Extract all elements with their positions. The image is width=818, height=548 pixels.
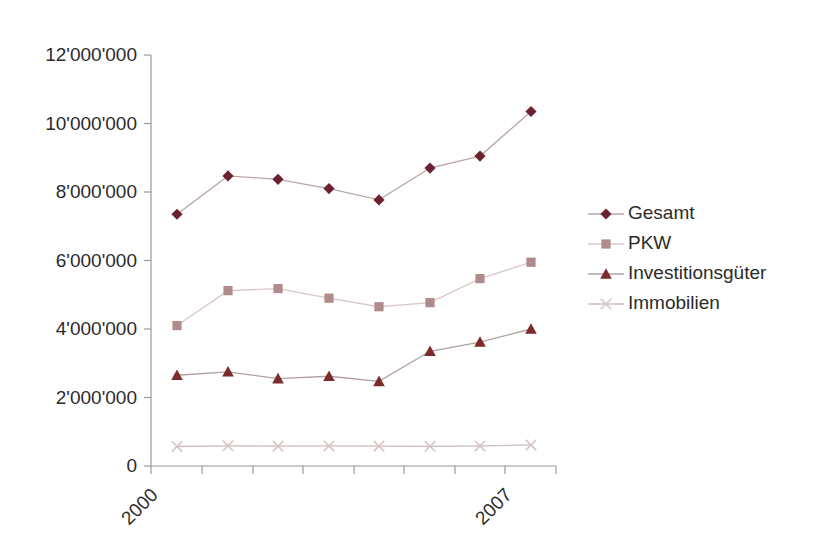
legend-label: Investitionsgüter	[628, 262, 767, 283]
data-point-diamond	[323, 183, 334, 194]
data-point-square	[526, 258, 535, 267]
data-point-square	[172, 321, 181, 330]
data-point-diamond	[171, 209, 182, 220]
series-investitionsg-ter	[171, 323, 537, 386]
data-point-triangle	[323, 370, 335, 381]
y-tick-label: 10'000'000	[45, 113, 137, 134]
data-point-square	[223, 286, 232, 295]
x-tick-label: 2007	[471, 484, 516, 529]
data-point-square	[425, 298, 434, 307]
x-axis: 20002007	[117, 466, 556, 529]
series-gesamt	[171, 106, 536, 220]
y-tick-label: 6'000'000	[56, 250, 137, 271]
series-pkw	[172, 258, 535, 331]
data-point-diamond	[222, 170, 233, 181]
data-point-square	[273, 284, 282, 293]
data-point-triangle	[222, 366, 234, 377]
data-point-diamond	[424, 162, 435, 173]
y-tick-label: 2'000'000	[56, 387, 137, 408]
legend-label: Immobilien	[628, 292, 720, 313]
series-line	[177, 445, 531, 447]
y-tick-label: 4'000'000	[56, 318, 137, 339]
series-line	[177, 112, 531, 215]
data-point-square	[374, 302, 383, 311]
data-point-square	[601, 239, 610, 248]
data-point-square	[475, 274, 484, 283]
data-point-triangle	[525, 323, 537, 334]
chart-legend: GesamtPKWInvestitionsgüterImmobilien	[588, 202, 767, 313]
y-tick-label: 0	[126, 455, 137, 476]
legend-label: PKW	[628, 232, 671, 253]
series-immobilien	[172, 440, 536, 452]
series-container	[171, 106, 537, 452]
legend-item-pkw[interactable]: PKW	[588, 232, 671, 253]
line-chart: 12'000'00010'000'0008'000'0006'000'0004'…	[0, 0, 818, 548]
y-axis: 12'000'00010'000'0008'000'0006'000'0004'…	[45, 44, 151, 476]
data-point-diamond	[600, 208, 611, 219]
data-point-square	[324, 294, 333, 303]
legend-item-immobilien[interactable]: Immobilien	[588, 292, 720, 313]
legend-item-gesamt[interactable]: Gesamt	[588, 202, 695, 223]
chart-canvas: 12'000'00010'000'0008'000'0006'000'0004'…	[0, 0, 818, 548]
data-point-diamond	[272, 174, 283, 185]
data-point-diamond	[373, 194, 384, 205]
y-tick-label: 8'000'000	[56, 181, 137, 202]
y-tick-label: 12'000'000	[45, 44, 137, 65]
x-tick-label: 2000	[117, 484, 162, 529]
legend-item-investitionsg-ter[interactable]: Investitionsgüter	[588, 262, 767, 283]
legend-label: Gesamt	[628, 202, 695, 223]
